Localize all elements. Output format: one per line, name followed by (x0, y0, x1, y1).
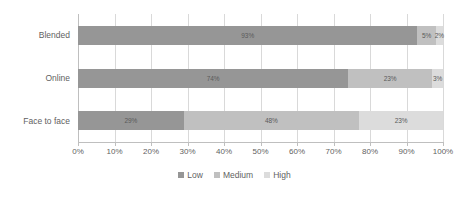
x-tick-mark (188, 143, 189, 146)
x-tick-mark (443, 143, 444, 146)
bar-segment[interactable]: 29% (78, 111, 184, 130)
bar-segment[interactable]: 74% (78, 69, 348, 88)
bar-segment-label: 74% (207, 75, 220, 82)
bar-segment-label: 23% (395, 117, 408, 124)
x-tick-mark (115, 143, 116, 146)
chart-legend: LowMediumHigh (0, 170, 469, 180)
x-tick-mark (370, 143, 371, 146)
x-tick-label: 0% (72, 147, 84, 157)
category-label: Face to face (0, 116, 70, 126)
x-tick-label: 70% (325, 147, 341, 157)
x-tick-mark (297, 143, 298, 146)
legend-swatch-icon (214, 172, 220, 178)
category-label: Online (0, 73, 70, 83)
x-tick-mark (151, 143, 152, 146)
x-tick-label: 30% (179, 147, 195, 157)
legend-label: High (273, 170, 290, 180)
legend-label: Medium (223, 170, 253, 180)
category-axis: BlendedOnlineFace to face (0, 14, 74, 142)
legend-item[interactable]: Low (178, 170, 203, 180)
x-tick-label: 10% (106, 147, 122, 157)
bar-segment-label: 2% (435, 32, 444, 39)
bar-segment-label: 23% (384, 75, 397, 82)
legend-swatch-icon (264, 172, 270, 178)
bar-segment-label: 48% (265, 117, 278, 124)
category-label: Blended (0, 30, 70, 40)
legend-item[interactable]: Medium (214, 170, 253, 180)
x-tick-label: 40% (216, 147, 232, 157)
legend-item[interactable]: High (264, 170, 290, 180)
x-tick-mark (261, 143, 262, 146)
bar-segment[interactable]: 23% (348, 69, 432, 88)
bar-segment[interactable]: 93% (78, 26, 417, 45)
plot-area: 93%5%2%74%23%3%29%48%23% (78, 14, 443, 142)
bar-segment[interactable]: 3% (432, 69, 443, 88)
bar-segment-label: 5% (422, 32, 431, 39)
stacked-bar-chart: BlendedOnlineFace to face 93%5%2%74%23%3… (0, 0, 469, 197)
bar-segment[interactable]: 5% (417, 26, 435, 45)
bar-segment[interactable]: 23% (359, 111, 443, 130)
bar-row[interactable]: 74%23%3% (78, 69, 443, 88)
x-tick-mark (334, 143, 335, 146)
legend-swatch-icon (178, 172, 184, 178)
x-tick-label: 50% (252, 147, 268, 157)
x-tick-label: 20% (143, 147, 159, 157)
legend-label: Low (187, 170, 203, 180)
x-tick-mark (224, 143, 225, 146)
bar-rows: 93%5%2%74%23%3%29%48%23% (78, 14, 443, 142)
x-axis-ticks: 0%10%20%30%40%50%60%70%80%90%100% (78, 143, 443, 159)
bar-segment-label: 29% (125, 117, 138, 124)
bar-row[interactable]: 93%5%2% (78, 26, 443, 45)
bar-segment-label: 3% (433, 75, 442, 82)
x-tick-label: 80% (362, 147, 378, 157)
bar-segment[interactable]: 48% (184, 111, 359, 130)
x-tick-label: 100% (433, 147, 453, 157)
x-tick-mark (78, 143, 79, 146)
bar-segment[interactable]: 2% (436, 26, 443, 45)
x-tick-label: 60% (289, 147, 305, 157)
x-tick-label: 90% (398, 147, 414, 157)
x-tick-mark (407, 143, 408, 146)
bar-segment-label: 93% (241, 32, 254, 39)
bar-row[interactable]: 29%48%23% (78, 111, 443, 130)
